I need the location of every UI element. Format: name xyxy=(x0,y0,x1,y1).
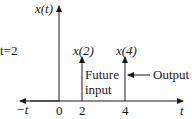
y-axis-label: x(t) xyxy=(35,2,53,16)
signal-diagram: t=2 x(t) x(2) x(4) Future input Output −… xyxy=(0,0,192,119)
neg-t-label: −t xyxy=(16,103,28,117)
tick-4: 4 xyxy=(122,104,129,118)
input-label: input xyxy=(85,83,112,97)
future-label: Future xyxy=(85,68,119,82)
tick-2: 2 xyxy=(79,104,86,118)
stem-label-x2: x(2) xyxy=(73,44,94,58)
side-label: t=2 xyxy=(0,44,17,58)
tick-0: 0 xyxy=(56,104,63,118)
output-label: Output xyxy=(153,68,189,82)
stem-label-x4: x(4) xyxy=(116,44,137,58)
t-label: t xyxy=(180,104,184,118)
axes-graphic xyxy=(0,0,192,119)
